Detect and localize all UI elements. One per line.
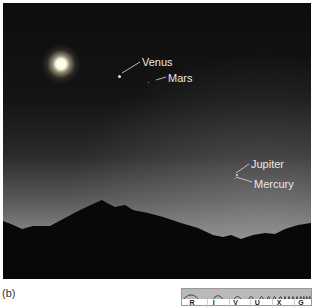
panel-label: (b): [2, 287, 15, 299]
band-v: V: [229, 299, 242, 307]
band-x: X: [272, 299, 285, 307]
band-i: I: [207, 299, 220, 307]
spectrum-wave-band: [182, 289, 311, 299]
night-sky-photo: Venus Mars Jupiter Mercury: [3, 3, 311, 279]
band-u: U: [250, 299, 263, 307]
mountain-silhouette: [3, 3, 311, 279]
band-r: R: [186, 299, 198, 307]
spectrum-bar: R I V U X G: [181, 288, 312, 306]
spectrum-band-labels: R I V U X G: [182, 299, 311, 307]
band-g: G: [294, 299, 307, 307]
